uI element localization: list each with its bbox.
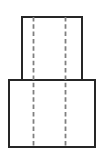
upper-step-rectangle: [22, 17, 82, 81]
lower-base-rectangle: [9, 80, 95, 147]
drawing-svg-root: [0, 0, 105, 160]
technical-drawing-canvas: [0, 0, 105, 160]
